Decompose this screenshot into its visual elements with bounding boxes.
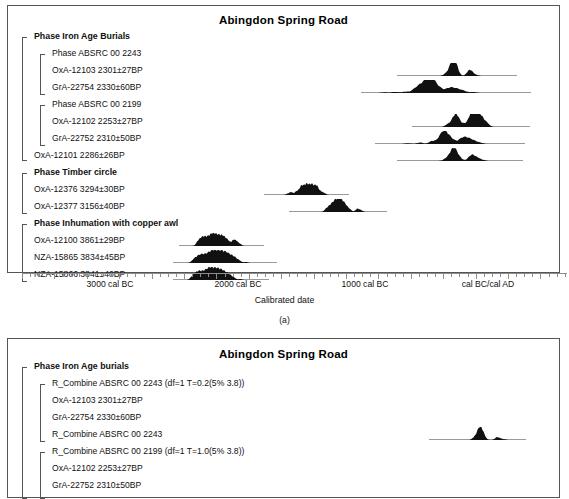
axis-tick (411, 273, 412, 279)
sample-label: OxA-12103 2301±27BP (52, 62, 143, 79)
chart-row: Phase ABSRC 00 2199 (8, 96, 559, 113)
axis-tick (127, 273, 128, 277)
sample-label: GrA-22754 2330±60BP (52, 409, 141, 426)
axis-tick (184, 273, 185, 279)
axis-tick (370, 273, 371, 277)
axis-tick (152, 273, 153, 279)
axis-tick (46, 273, 47, 277)
panel-a-rows: Phase Iron Age BurialsPhase ABSRC 00 224… (8, 6, 559, 272)
axis-tick-label: 2000 cal BC (215, 279, 262, 289)
axis-tick (54, 273, 55, 279)
sample-label: OxA-12102 2253±27BP (52, 460, 143, 477)
axis-tick (540, 273, 541, 279)
axis-tick (500, 273, 501, 277)
axis-tick (200, 273, 201, 277)
axis-tick (557, 273, 558, 277)
chart-row: OxA-12102 2253±27BP (8, 113, 559, 130)
axis-tick (443, 273, 444, 279)
sample-label: OxA-12377 3156±40BP (34, 198, 125, 215)
chart-row: OxA-12102 2253±27BP (8, 460, 559, 477)
phase-label: Phase Inhumation with copper awl (34, 215, 178, 232)
axis-tick (111, 273, 112, 277)
panel-a-axis (22, 273, 567, 274)
axis-tick (549, 273, 550, 277)
chart-row: OxA-12101 2286±26BP (8, 147, 559, 164)
chart-row: GrA-22754 2330±60BP (8, 79, 559, 96)
chart-row: Phase Iron Age Burials (8, 28, 559, 45)
sample-label: R_Combine ABSRC 00 2243 (df=1 T=0.2(5% 3… (52, 375, 244, 392)
axis-tick (451, 273, 452, 277)
sample-label: R_Combine ABSRC 00 2243 (52, 426, 162, 443)
axis-tick-label: cal BC/cal AD (462, 279, 515, 289)
phase-label: Phase Timber circle (34, 164, 117, 181)
chart-row: R_Combine ABSRC 00 2243 (df=1 T=0.2(5% 3… (8, 375, 559, 392)
probability-distribution (289, 198, 387, 215)
sample-label: GrA-22752 2310±50BP (52, 477, 141, 494)
axis-tick (225, 273, 226, 277)
probability-distribution (173, 249, 277, 266)
axis-tick (273, 273, 274, 277)
sample-label: GrA-22754 2330±60BP (52, 79, 141, 96)
sample-label: OxA-12100 3861±29BP (34, 232, 125, 249)
probability-distribution (361, 79, 531, 96)
axis-tick (22, 273, 23, 279)
axis-tick (257, 273, 258, 277)
axis-tick (38, 273, 39, 277)
axis-tick (281, 273, 282, 279)
axis-tick (565, 273, 566, 277)
axis-tick (79, 273, 80, 277)
axis-tick (297, 273, 298, 277)
axis-tick (63, 273, 64, 277)
axis-tick (306, 273, 307, 277)
axis-tick (192, 273, 193, 277)
probability-distribution (412, 113, 530, 130)
chart-row: OxA-12376 3294±30BP (8, 181, 559, 198)
axis-tick (516, 273, 517, 277)
axis-tick (30, 273, 31, 277)
sample-label: OxA-12103 2301±27BP (52, 392, 143, 409)
chart-row: OxA-12377 3156±40BP (8, 198, 559, 215)
sample-label: OxA-12102 2253±27BP (52, 113, 143, 130)
chart-row: Phase Inhumation with copper awl (8, 215, 559, 232)
probability-distribution (429, 426, 526, 443)
panel-b-chart: Abingdon Spring Road Phase Iron Age buri… (7, 338, 560, 498)
sample-label: GrA-22752 2310±50BP (52, 130, 141, 147)
probability-distribution (397, 62, 517, 79)
axis-tick (427, 273, 428, 277)
chart-row: OxA-12103 2301±27BP (8, 392, 559, 409)
axis-tick (289, 273, 290, 277)
axis-tick (71, 273, 72, 277)
axis-tick (144, 273, 145, 277)
axis-tick (468, 273, 469, 277)
axis-tick (208, 273, 209, 277)
axis-tick (135, 273, 136, 277)
sample-label: R_Combine ABSRC 00 2199 (df=1 T=1.0(5% 3… (52, 443, 244, 460)
axis-tick (338, 273, 339, 277)
axis-tick (532, 273, 533, 277)
axis-tick (322, 273, 323, 277)
axis-tick-label: 1000 cal BC (342, 279, 389, 289)
sample-label: OxA-12101 2286±26BP (34, 147, 125, 164)
chart-row: OxA-12103 2301±27BP (8, 62, 559, 79)
axis-tick (354, 273, 355, 277)
axis-tick (492, 273, 493, 277)
chart-row: GrA-22752 2310±50BP (8, 130, 559, 147)
axis-tick (168, 273, 169, 277)
probability-distribution (375, 130, 525, 147)
axis-tick (241, 273, 242, 277)
probability-distribution (264, 181, 349, 198)
sample-label: NZA-15865 3834±45BP (34, 249, 125, 266)
axis-tick (233, 273, 234, 277)
probability-distribution (179, 232, 264, 249)
chart-row: NZA-15865 3834±45BP (8, 249, 559, 266)
probability-distribution (397, 147, 523, 164)
axis-tick (95, 273, 96, 277)
phase-label: Phase Iron Age burials (34, 358, 129, 375)
chart-row: Phase ABSRC 00 2243 (8, 45, 559, 62)
chart-row: Phase Timber circle (8, 164, 559, 181)
axis-tick (362, 273, 363, 277)
chart-row: GrA-22754 2330±60BP (8, 409, 559, 426)
axis-tick (265, 273, 266, 277)
axis-tick (419, 273, 420, 277)
axis-tick (103, 273, 104, 277)
